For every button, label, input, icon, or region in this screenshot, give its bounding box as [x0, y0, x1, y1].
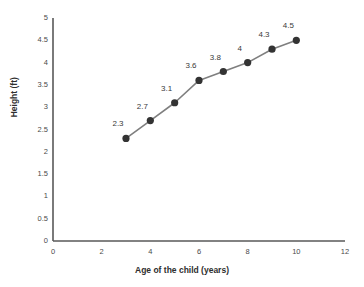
x-axis-title: Age of the child (years): [0, 266, 364, 275]
data-point-marker: [171, 99, 178, 106]
y-axis-tick-label: 1: [18, 192, 48, 200]
y-axis-tick-label: 3: [18, 103, 48, 111]
line-chart: 00.511.522.533.544.55 024681012 2.32.73.…: [0, 0, 364, 287]
y-axis-tick-label: 1.5: [18, 170, 48, 178]
y-axis-title: Height (ft): [10, 61, 19, 133]
x-axis-tick-label: 2: [87, 248, 117, 256]
data-point-marker: [244, 59, 251, 66]
x-axis-tick-label: 10: [281, 248, 311, 256]
y-axis-tick-label: 0: [18, 237, 48, 245]
y-axis-tick-label: 0.5: [18, 215, 48, 223]
y-axis-tick-label: 3.5: [18, 81, 48, 89]
data-point-value-label: 4: [228, 45, 252, 53]
x-axis-tick-label: 4: [135, 248, 165, 256]
x-axis-tick-label: 6: [184, 248, 214, 256]
data-point-value-label: 3.8: [203, 54, 227, 62]
data-point-marker: [147, 117, 154, 124]
chart-canvas: [0, 0, 364, 287]
y-axis-tick-label: 4: [18, 59, 48, 67]
data-point-marker: [220, 68, 227, 75]
y-axis-tick-label: 4.5: [18, 36, 48, 44]
data-point-value-label: 4.3: [252, 31, 276, 39]
x-axis-tick-label: 8: [233, 248, 263, 256]
data-point-marker: [293, 37, 300, 44]
data-point-value-label: 4.5: [276, 22, 300, 30]
data-point-value-label: 3.1: [155, 85, 179, 93]
x-axis-tick-label: 12: [330, 248, 360, 256]
x-axis-tick-label: 0: [38, 248, 68, 256]
data-point-value-label: 3.6: [179, 62, 203, 70]
data-point-marker: [195, 77, 202, 84]
y-axis-tick-label: 5: [18, 14, 48, 22]
data-point-marker: [268, 46, 275, 53]
data-point-value-label: 2.3: [106, 120, 130, 128]
y-axis-tick-label: 2: [18, 148, 48, 156]
axes: [53, 18, 345, 241]
data-point-marker: [122, 135, 129, 142]
data-point-value-label: 2.7: [130, 103, 154, 111]
y-axis-tick-label: 2.5: [18, 126, 48, 134]
